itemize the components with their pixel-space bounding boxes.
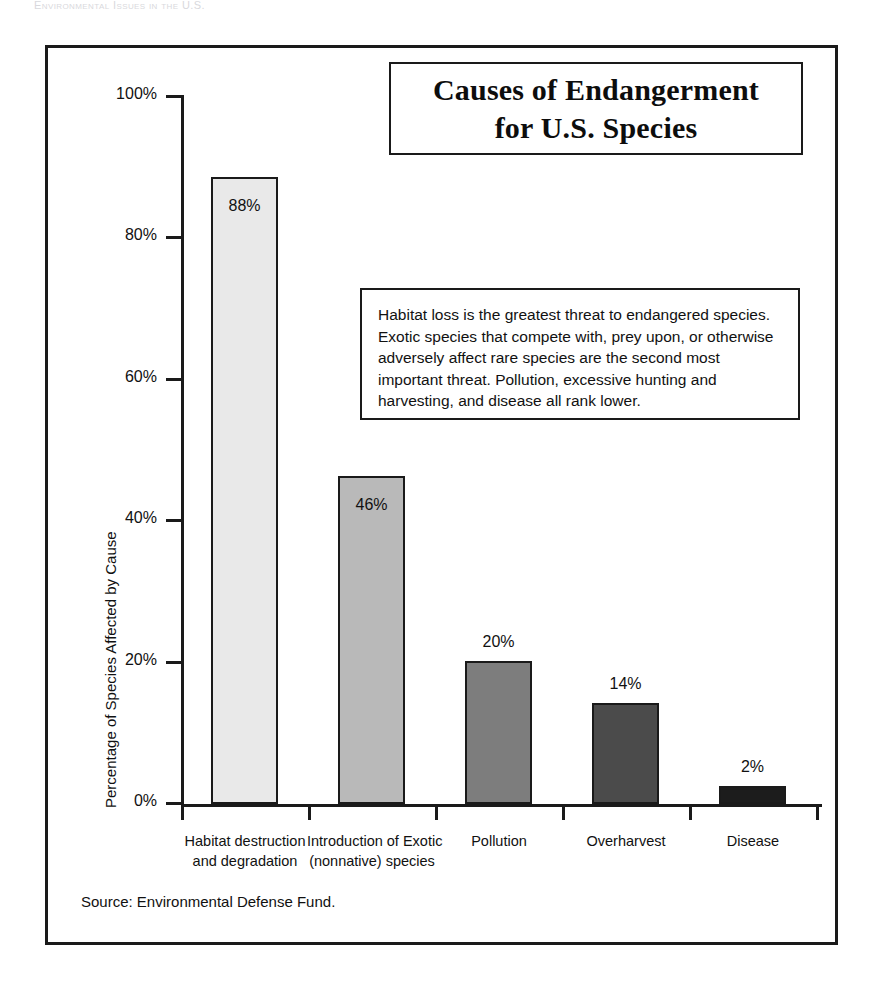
bar-value-label-exotic-species: 46%: [355, 496, 387, 514]
x-axis-tick-0: [181, 804, 184, 820]
x-axis-line: [181, 804, 822, 807]
cat-label-line1: Overharvest: [587, 833, 666, 849]
y-axis-tick-20: 20%: [166, 661, 181, 664]
y-axis-tick-100: 100%: [166, 95, 181, 98]
x-axis-tick-3: [562, 804, 565, 820]
x-axis-tick-1: [308, 804, 311, 820]
x-axis-category-label-habitat-destruction: Habitat destruction and degradation: [180, 831, 310, 871]
source-note: Source: Environmental Defense Fund.: [81, 893, 335, 911]
bar-pollution[interactable]: 20%: [465, 661, 532, 804]
y-axis-tick-label-60: 60%: [125, 368, 157, 386]
bar-habitat-destruction[interactable]: 88%: [211, 177, 278, 804]
y-axis-tick-80: 80%: [166, 236, 181, 239]
y-axis-line: [181, 95, 184, 807]
x-axis-tick-5: [816, 804, 819, 820]
x-axis-tick-4: [689, 804, 692, 820]
cat-label-line1: Disease: [727, 833, 779, 849]
y-axis-tick-label-0: 0%: [134, 792, 157, 810]
plot-area: 100% 80% 60% 40% 20% 0% 88% 46%: [181, 95, 819, 807]
y-axis-tick-label-40: 40%: [125, 509, 157, 527]
cat-label-line2: and degradation: [180, 851, 310, 871]
page-header-remnant: Environmental Issues in the U.S.: [34, 0, 364, 11]
y-axis-tick-label-20: 20%: [125, 651, 157, 669]
y-axis-tick-0: 0%: [166, 802, 181, 805]
y-axis-tick-label-80: 80%: [125, 226, 157, 244]
x-axis-tick-2: [435, 804, 438, 820]
x-axis-category-label-disease: Disease: [688, 831, 818, 851]
cat-label-line1: Pollution: [471, 833, 527, 849]
y-axis-tick-60: 60%: [166, 378, 181, 381]
x-axis-category-label-pollution: Pollution: [434, 831, 564, 851]
bar-disease[interactable]: 2%: [719, 786, 786, 804]
x-axis-category-label-overharvest: Overharvest: [561, 831, 691, 851]
bar-exotic-species[interactable]: 46%: [338, 476, 405, 804]
bar-value-label-habitat-destruction: 88%: [228, 197, 260, 215]
bar-value-label-pollution: 20%: [482, 633, 514, 651]
cat-label-line2: (nonnative) species: [307, 851, 437, 871]
y-axis-tick-label-100: 100%: [116, 85, 157, 103]
y-axis-tick-40: 40%: [166, 519, 181, 522]
x-axis-category-label-exotic-species: Introduction of Exotic (nonnative) speci…: [307, 831, 437, 871]
figure-frame: Causes of Endangerment for U.S. Species …: [45, 45, 838, 945]
cat-label-line1: Introduction of Exotic: [307, 833, 442, 849]
cat-label-line1: Habitat destruction: [185, 833, 306, 849]
bar-overharvest[interactable]: 14%: [592, 703, 659, 804]
bar-value-label-disease: 2%: [741, 758, 764, 776]
bar-value-label-overharvest: 14%: [609, 675, 641, 693]
